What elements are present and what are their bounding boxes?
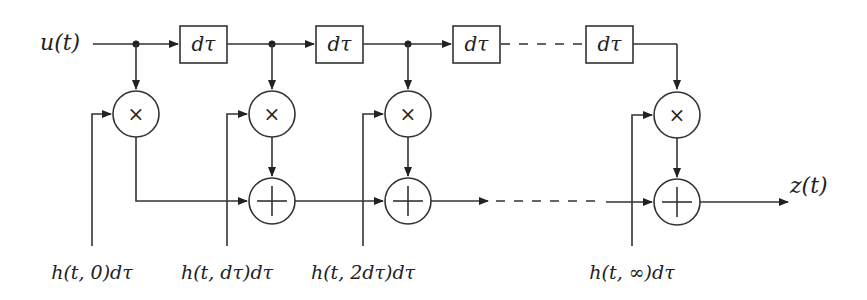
block-diagram: u(t) dτ dτ dτ dτ × <box>0 0 867 300</box>
adder-1 <box>249 178 295 224</box>
multiplier-2: × <box>249 91 295 137</box>
delay-block-4: dτ <box>586 26 633 63</box>
svg-text:×: × <box>669 103 686 127</box>
svg-text:×: × <box>264 102 281 126</box>
svg-text:×: × <box>400 102 417 126</box>
delay-block-2: dτ <box>316 26 363 63</box>
output-label: z(t) <box>789 173 828 198</box>
svg-text:×: × <box>128 102 145 126</box>
delay-block-3: dτ <box>453 26 500 63</box>
adder-2 <box>385 178 431 224</box>
input-label: u(t) <box>40 30 80 55</box>
tap-label-1: h(t, dτ)dτ <box>181 261 274 283</box>
tap-label-2: h(t, 2dτ)dτ <box>311 261 416 283</box>
svg-text:dτ: dτ <box>598 32 623 56</box>
weight-inputs <box>92 114 652 246</box>
tap-label-0: h(t, 0)dτ <box>51 261 133 283</box>
adder-3 <box>654 179 700 225</box>
delay-block-1: dτ <box>180 26 227 63</box>
svg-text:dτ: dτ <box>465 32 490 56</box>
tap-label-inf: h(t, ∞)dτ <box>589 261 675 283</box>
svg-text:dτ: dτ <box>328 32 353 56</box>
multiplier-4: × <box>654 92 700 138</box>
multiplier-3: × <box>385 91 431 137</box>
multiplier-1: × <box>113 91 159 137</box>
sum-line <box>295 201 788 202</box>
svg-text:dτ: dτ <box>192 32 217 56</box>
